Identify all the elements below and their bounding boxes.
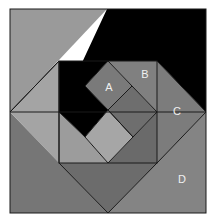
label-C: C <box>173 105 181 117</box>
geometric-diagram: A B C D <box>0 0 214 220</box>
label-A: A <box>105 81 113 93</box>
label-B: B <box>141 68 148 80</box>
label-D: D <box>178 173 186 185</box>
